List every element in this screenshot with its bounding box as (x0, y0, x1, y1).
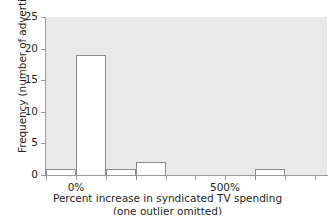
y-tick-mark (41, 49, 46, 50)
x-tick-mark (315, 176, 316, 180)
histogram-bar (76, 55, 106, 175)
x-tick-mark (46, 176, 47, 180)
histogram-bar (136, 162, 166, 175)
y-axis-line (45, 17, 46, 176)
x-tick-mark (106, 176, 107, 180)
x-tick-mark (136, 176, 137, 180)
y-tick-label: 0 (16, 168, 38, 180)
x-tick-mark (255, 176, 256, 180)
x-axis-title-line1: Percent increase in syndicated TV spendi… (0, 192, 335, 205)
histogram-bar (255, 169, 285, 175)
histogram-figure: Frequency (number of advertisers) 051015… (0, 0, 335, 215)
y-tick-mark (41, 112, 46, 113)
y-tick-mark (41, 17, 46, 18)
y-tick-label: 10 (16, 105, 38, 117)
y-tick-mark (41, 80, 46, 81)
x-tick-mark (285, 176, 286, 180)
y-tick-mark (41, 143, 46, 144)
y-tick-label: 20 (16, 42, 38, 54)
y-tick-label: 5 (16, 136, 38, 148)
x-tick-mark (166, 176, 167, 180)
histogram-bar (46, 169, 76, 175)
x-tick-mark (195, 176, 196, 180)
y-tick-label: 25 (16, 10, 38, 22)
x-axis-title-line2: (one outlier omitted) (0, 205, 335, 216)
x-tick-mark (76, 176, 77, 180)
x-axis-title: Percent increase in syndicated TV spendi… (0, 192, 335, 215)
x-tick-mark (225, 176, 226, 180)
histogram-bar (106, 169, 136, 175)
y-tick-label: 15 (16, 73, 38, 85)
